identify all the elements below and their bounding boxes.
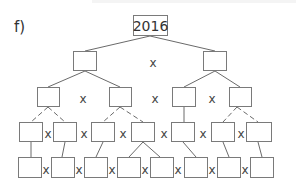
empty-answer-box[interactable] [109, 87, 132, 107]
tree-edge [96, 142, 103, 157]
tree-edge [183, 142, 196, 157]
multiply-operator: x [208, 93, 215, 105]
empty-answer-box[interactable] [211, 122, 235, 142]
tree-edge [120, 107, 143, 122]
empty-answer-box[interactable] [18, 157, 42, 178]
tree-edge [48, 107, 65, 122]
factor-tree-diagram: f) 2016 xxxxxxxxxxxxxxxxx [0, 0, 296, 195]
problem-label: f) [14, 20, 25, 35]
empty-answer-box[interactable] [172, 87, 196, 107]
tree-edge [150, 36, 215, 51]
tree-edge [62, 142, 65, 157]
tree-edge [223, 107, 237, 122]
multiply-operator: x [208, 164, 215, 176]
empty-answer-box[interactable] [217, 157, 241, 178]
tree-edge [223, 142, 229, 157]
empty-answer-box[interactable] [53, 122, 77, 142]
multiply-operator: x [108, 164, 115, 176]
multiply-operator: x [44, 128, 51, 140]
empty-answer-box[interactable] [73, 51, 97, 71]
tree-edge [143, 142, 160, 157]
empty-answer-box[interactable] [229, 87, 252, 107]
empty-answer-box[interactable] [91, 122, 115, 142]
tree-edge [237, 107, 258, 122]
multiply-operator: x [141, 164, 148, 176]
multiply-operator: x [75, 164, 82, 176]
tree-edge [215, 71, 240, 87]
tree-edge [258, 142, 262, 157]
multiply-operator: x [149, 57, 156, 69]
empty-answer-box[interactable] [117, 157, 141, 178]
tree-edge [184, 71, 215, 87]
empty-answer-box[interactable] [37, 87, 60, 107]
multiply-operator: x [237, 128, 244, 140]
tree-edge [31, 107, 48, 122]
tree-edge [103, 107, 120, 122]
tree-edge [85, 71, 120, 87]
multiply-operator: x [199, 128, 206, 140]
empty-answer-box[interactable] [131, 122, 155, 142]
empty-answer-box[interactable] [171, 122, 195, 142]
empty-answer-box[interactable] [84, 157, 108, 178]
multiply-operator: x [119, 128, 126, 140]
multiply-operator: x [80, 128, 87, 140]
multiply-operator: x [241, 164, 248, 176]
root-box: 2016 [133, 15, 168, 36]
empty-answer-box[interactable] [150, 157, 174, 178]
empty-answer-box[interactable] [184, 157, 208, 178]
multiply-operator: x [42, 164, 49, 176]
empty-answer-box[interactable] [250, 157, 274, 178]
multiply-operator: x [174, 164, 181, 176]
empty-answer-box[interactable] [203, 51, 227, 71]
multiply-operator: x [151, 93, 158, 105]
multiply-operator: x [79, 93, 86, 105]
empty-answer-box[interactable] [51, 157, 75, 178]
empty-answer-box[interactable] [246, 122, 272, 142]
multiply-operator: x [160, 128, 167, 140]
empty-answer-box[interactable] [19, 122, 43, 142]
tree-edge [129, 142, 143, 157]
tree-edge [85, 36, 150, 51]
tree-edge [48, 71, 85, 87]
